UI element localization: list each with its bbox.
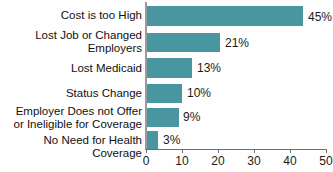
- x-tick-label: 20: [211, 154, 224, 168]
- bar-value-label: 21%: [225, 36, 249, 50]
- category-label: Status Change: [0, 87, 142, 100]
- x-tick-label: 50: [319, 154, 332, 168]
- bar-value-label: 3%: [163, 133, 180, 147]
- x-tick-label: 10: [175, 154, 188, 168]
- bar-chart: Cost is too High45%Lost Job or Changed E…: [0, 0, 333, 172]
- bar: [147, 33, 220, 52]
- x-tick-mark: [218, 149, 219, 153]
- x-tick-label: 0: [143, 154, 150, 168]
- x-tick-mark: [146, 149, 147, 153]
- bar-value-label: 9%: [183, 110, 200, 124]
- value-axis-line: [145, 149, 326, 150]
- category-label: Lost Job or Changed Employers: [0, 29, 142, 54]
- bar: [147, 6, 303, 26]
- x-tick-mark: [182, 149, 183, 153]
- category-label: Employer Does not Offer or Ineligible fo…: [0, 105, 142, 130]
- plot-area: Cost is too High45%Lost Job or Changed E…: [0, 0, 333, 172]
- category-label: Lost Medicaid: [0, 62, 142, 75]
- x-tick-mark: [254, 149, 255, 153]
- x-tick-label: 40: [283, 154, 296, 168]
- bar: [147, 58, 192, 78]
- bar: [147, 108, 179, 127]
- category-label: Cost is too High: [0, 9, 142, 22]
- category-label: No Need for Health Coverage: [0, 134, 142, 159]
- bar-value-label: 45%: [308, 10, 332, 24]
- bar: [147, 84, 182, 103]
- bar-value-label: 10%: [187, 86, 211, 100]
- x-tick-mark: [290, 149, 291, 153]
- bar: [147, 131, 158, 149]
- x-tick-mark: [326, 149, 327, 153]
- bar-value-label: 13%: [197, 61, 221, 75]
- x-tick-label: 30: [247, 154, 260, 168]
